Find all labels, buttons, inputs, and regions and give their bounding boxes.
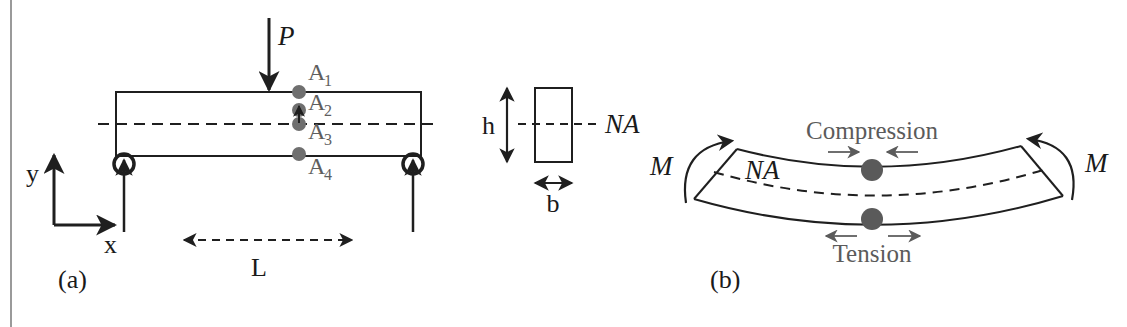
- figure-background: [0, 0, 1127, 327]
- point-markers: [292, 85, 306, 161]
- point-label-a2-sub: 2: [324, 102, 332, 119]
- point-marker-a4: [292, 147, 306, 161]
- tension-marker: [861, 208, 883, 230]
- figure-canvas: P A 1 A 2 A 3: [0, 0, 1127, 327]
- point-label-a1-sub: 1: [324, 72, 332, 89]
- point-label-a3-sub: 3: [324, 131, 332, 148]
- width-label-b: b: [547, 189, 560, 218]
- moment-left-label: M: [649, 151, 674, 181]
- height-label-h: h: [482, 111, 495, 140]
- panel-b-caption: (b): [710, 265, 740, 294]
- axis-x-label: x: [104, 230, 117, 259]
- axis-y-label: y: [26, 159, 39, 188]
- bent-beam-neutral-axis-label: NA: [744, 155, 780, 185]
- span-label-l: L: [251, 253, 267, 282]
- panel-a-caption: (a): [58, 265, 87, 294]
- load-label-p: P: [277, 21, 295, 51]
- compression-label: Compression: [806, 117, 938, 144]
- point-label-a4-sub: 4: [324, 166, 332, 183]
- point-marker-a1: [292, 85, 306, 99]
- engineering-figure: P A 1 A 2 A 3: [0, 0, 1127, 327]
- moment-right-label: M: [1084, 148, 1109, 178]
- section-neutral-axis-label: NA: [604, 109, 640, 139]
- tension-label: Tension: [833, 240, 912, 267]
- compression-marker: [861, 159, 883, 181]
